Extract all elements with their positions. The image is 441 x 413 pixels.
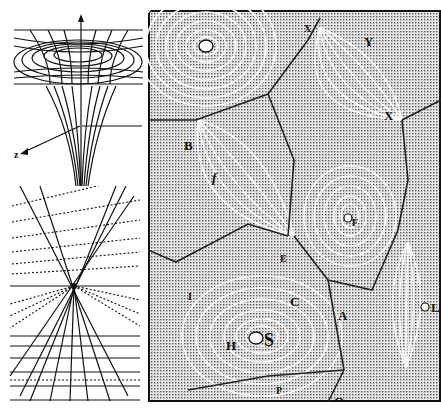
label-E: E <box>280 253 287 264</box>
label-X-top: X <box>304 23 312 34</box>
gravity-well-funnel-diagram: z <box>0 0 148 186</box>
label-Y: Y <box>364 34 374 49</box>
label-F: F <box>352 217 358 228</box>
vortex-engraving: Y X X B f F E I C A L H S P Q <box>148 10 441 402</box>
label-X-right: X <box>384 108 394 123</box>
label-I: I <box>188 291 192 302</box>
axis-label-z: z <box>14 149 19 160</box>
label-Q: Q <box>334 394 344 402</box>
label-P: P <box>276 385 282 396</box>
label-S: S <box>264 330 274 350</box>
focal-point <box>71 283 77 289</box>
label-B: B <box>184 138 193 153</box>
label-A: A <box>338 308 348 323</box>
label-C: C <box>290 294 299 309</box>
label-H: H <box>226 338 236 353</box>
converging-lines-perspective-diagram <box>0 186 148 413</box>
label-L: L <box>431 300 440 315</box>
